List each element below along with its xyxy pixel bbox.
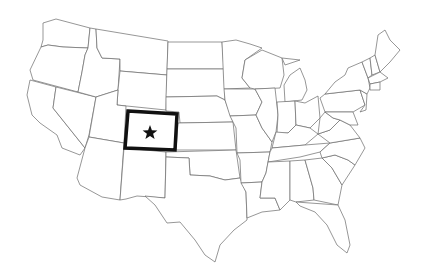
state-south-dakota bbox=[166, 69, 225, 100]
highlighted-state-colorado bbox=[125, 111, 177, 150]
state-maine bbox=[375, 30, 400, 72]
state-kansas bbox=[176, 122, 236, 150]
states bbox=[27, 19, 400, 262]
state-new-york bbox=[325, 62, 370, 94]
state-wyoming bbox=[117, 71, 167, 110]
state-ohio bbox=[295, 96, 320, 128]
state-new-mexico bbox=[120, 148, 166, 200]
us-map bbox=[0, 0, 425, 277]
state-washington bbox=[41, 19, 90, 48]
state-michigan bbox=[282, 58, 307, 102]
state-florida bbox=[296, 202, 350, 253]
state-iowa bbox=[224, 89, 262, 116]
state-north-dakota bbox=[167, 42, 224, 69]
